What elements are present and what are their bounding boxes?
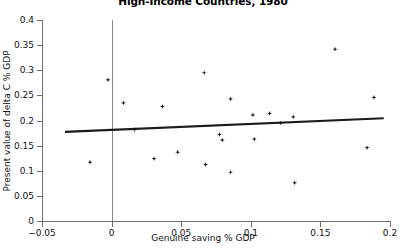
x-tick <box>251 222 252 227</box>
y-tick-label: 0.35 <box>0 40 34 50</box>
y-tick-label: 0.4 <box>0 15 34 25</box>
trend-line <box>42 20 390 221</box>
x-tick <box>181 222 182 227</box>
x-tick <box>320 222 321 227</box>
x-tick <box>112 222 113 227</box>
x-axis-label: Genuine saving % GDP <box>0 233 406 243</box>
y-tick-label: 0.1 <box>0 166 34 176</box>
y-tick-label: 0.3 <box>0 65 34 75</box>
y-tick-label: 0.05 <box>0 191 34 201</box>
x-tick <box>390 222 391 227</box>
chart-title: High-Income Countries, 1980 <box>0 0 406 7</box>
x-tick <box>42 222 43 227</box>
x-axis-line <box>42 221 391 222</box>
plot-area <box>42 20 390 221</box>
y-tick-label: 0 <box>0 216 34 226</box>
y-tick-label: 0.25 <box>0 90 34 100</box>
y-tick-label: 0.2 <box>0 116 34 126</box>
y-tick-label: 0.15 <box>0 141 34 151</box>
scatter-chart-figure: High-Income Countries, 1980 Present valu… <box>0 0 406 248</box>
